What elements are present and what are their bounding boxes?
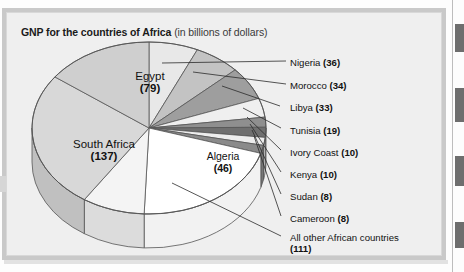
callout-kenya-value: (10) bbox=[320, 169, 337, 180]
callout-ivory-coast: Ivory Coast (10) bbox=[290, 147, 358, 158]
callout-libya-value: (33) bbox=[316, 102, 333, 113]
slice-label-egypt-name: Egypt bbox=[115, 70, 185, 82]
callout-libya: Libya (33) bbox=[290, 102, 333, 113]
callout-all-other-african-countries-name: All other African countries bbox=[290, 232, 399, 243]
callout-nigeria-value: (36) bbox=[323, 57, 340, 68]
callout-tunisia-name: Tunisia bbox=[290, 125, 323, 136]
callout-tunisia-value: (19) bbox=[323, 125, 340, 136]
callout-cameroon-name: Cameroon bbox=[290, 213, 337, 224]
callout-kenya-name: Kenya bbox=[290, 169, 320, 180]
callout-libya-name: Libya bbox=[290, 102, 316, 113]
callout-sudan: Sudan (8) bbox=[290, 191, 332, 202]
slice-label-south-africa-name: South Africa bbox=[57, 138, 151, 150]
callout-ivory-coast-value: (10) bbox=[341, 147, 358, 158]
slice-label-algeria-name: Algeria bbox=[192, 150, 254, 162]
slice-label-egypt: Egypt(79) bbox=[115, 70, 185, 94]
callout-all-other-african-countries-value: (111) bbox=[290, 243, 399, 254]
slice-label-algeria: Algeria(46) bbox=[192, 150, 254, 174]
callout-morocco-value: (34) bbox=[329, 80, 346, 91]
callout-morocco-name: Morocco bbox=[290, 80, 329, 91]
callout-kenya: Kenya (10) bbox=[290, 169, 337, 180]
callout-all-other-african-countries: All other African countries(111) bbox=[290, 232, 399, 254]
callout-ivory-coast-name: Ivory Coast bbox=[290, 147, 341, 158]
pie-top-surface: Nigeria (36)Morocco (34)Libya (33)Tunisi… bbox=[32, 42, 266, 214]
callout-nigeria: Nigeria (36) bbox=[290, 57, 340, 68]
slice-label-south-africa: South Africa(137) bbox=[57, 138, 151, 162]
callout-cameroon-value: (8) bbox=[337, 213, 349, 224]
callout-cameroon: Cameroon (8) bbox=[290, 213, 349, 224]
slice-label-algeria-value: (46) bbox=[192, 162, 254, 174]
callout-nigeria-name: Nigeria bbox=[290, 57, 323, 68]
callout-tunisia: Tunisia (19) bbox=[290, 125, 340, 136]
slice-label-south-africa-value: (137) bbox=[57, 150, 151, 162]
callout-sudan-value: (8) bbox=[320, 191, 332, 202]
slice-label-egypt-value: (79) bbox=[115, 82, 185, 94]
figure-page: GNP for the countries of Africa (in bill… bbox=[0, 0, 464, 272]
callout-morocco: Morocco (34) bbox=[290, 80, 347, 91]
callout-sudan-name: Sudan bbox=[290, 191, 320, 202]
